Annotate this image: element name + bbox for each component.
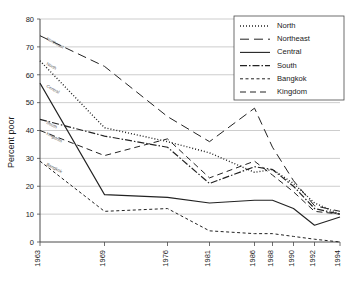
- series-line-central: [40, 83, 340, 225]
- x-tick-label: 1969: [98, 250, 107, 267]
- inline-series-label: Northeast: [46, 36, 66, 50]
- y-tick-label: 20: [26, 182, 34, 191]
- y-tick-label: 80: [26, 15, 34, 24]
- y-tick-label: 40: [26, 126, 34, 135]
- legend-label-south: South: [277, 61, 297, 70]
- poverty-trend-line-chart: 01020304050607080 1963196919761981198619…: [0, 0, 356, 288]
- y-axis-ticks-group: 01020304050607080: [26, 15, 40, 247]
- inline-series-label: North: [46, 61, 58, 71]
- legend-label-central: Central: [277, 47, 302, 56]
- x-tick-label: 1988: [266, 250, 275, 267]
- y-tick-label: 70: [26, 43, 34, 52]
- series-line-kingdom: [40, 131, 340, 215]
- x-tick-label: 1992: [308, 250, 317, 267]
- x-tick-label: 1976: [161, 250, 170, 267]
- y-tick-label: 50: [26, 98, 34, 107]
- y-tick-label: 10: [26, 210, 34, 219]
- legend-label-northeast: Northeast: [277, 34, 311, 43]
- legend-label-north: North: [277, 21, 296, 30]
- x-tick-label: 1963: [33, 250, 42, 267]
- y-tick-label: 30: [26, 154, 34, 163]
- chart-legend: NorthNortheastCentralSouthBangkokKingdom: [234, 16, 344, 100]
- y-axis-title: Percent poor: [6, 116, 16, 168]
- x-tick-label: 1986: [248, 250, 257, 267]
- legend-label-kingdom: Kingdom: [277, 87, 307, 96]
- legend-label-bangkok: Bangkok: [277, 74, 307, 83]
- chart-container: 01020304050607080 1963196919761981198619…: [0, 0, 356, 288]
- inline-series-labels-group: NorthNortheastCentralSouthBangkokKingdom: [46, 36, 66, 174]
- y-tick-label: 60: [26, 71, 34, 80]
- inline-series-label: South: [46, 120, 59, 130]
- inline-series-label: Central: [46, 84, 61, 95]
- x-tick-label: 1990: [287, 250, 296, 267]
- y-tick-label: 0: [30, 238, 34, 247]
- inline-series-label: Kingdom: [46, 131, 64, 144]
- x-tick-label: 1994: [333, 250, 342, 267]
- x-tick-label: 1981: [203, 250, 212, 267]
- series-line-bangkok: [40, 161, 340, 242]
- x-axis-ticks-group: 196319691976198119861988199019921994: [33, 242, 342, 267]
